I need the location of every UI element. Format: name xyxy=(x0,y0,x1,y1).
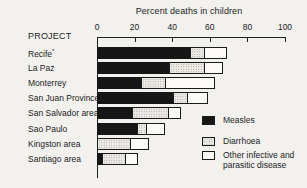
bar-segment-diarrhoea xyxy=(173,92,188,104)
bar-segment-other xyxy=(204,47,227,59)
chart-row: Monterrey xyxy=(0,77,307,89)
bar-segment-measles xyxy=(97,92,174,104)
x-tick xyxy=(285,37,286,42)
measles-swatch-icon xyxy=(202,116,215,125)
bar-segment-measles xyxy=(97,47,191,59)
x-tick-label: 100 xyxy=(278,22,292,32)
bar-segment-diarrhoea xyxy=(169,62,205,74)
category-label: Sao Paulo xyxy=(28,124,67,134)
category-label: Santiago area xyxy=(28,154,81,164)
stacked-bar xyxy=(97,138,149,150)
bar-segment-other xyxy=(146,123,165,135)
x-tick-label: 40 xyxy=(167,22,176,32)
chart-title: Percent deaths in children xyxy=(136,6,243,16)
x-tick-label: 60 xyxy=(205,22,214,32)
stacked-bar xyxy=(97,92,208,104)
stacked-bar xyxy=(97,77,215,89)
x-tick-label: 0 xyxy=(95,22,100,32)
diarrhoea-swatch-icon xyxy=(202,137,215,146)
bar-segment-measles xyxy=(97,107,133,119)
x-tick xyxy=(210,37,211,42)
legend-label: Other infective and parasitic disease xyxy=(223,151,303,170)
legend-item-diarrhoea: Diarrhoea xyxy=(202,137,303,147)
x-tick xyxy=(135,37,136,42)
bar-segment-other xyxy=(125,153,138,165)
mortality-stacked-bar-figure: Percent deaths in children PROJECT 02040… xyxy=(0,0,307,188)
bar-segment-other xyxy=(168,107,181,119)
legend-item-measles: Measles xyxy=(202,116,303,126)
bar-segment-diarrhoea xyxy=(190,47,205,59)
stacked-bar xyxy=(97,62,223,74)
category-label: San Salvador area xyxy=(28,108,98,118)
bar-segment-other xyxy=(187,92,208,104)
chart-row: San Juan Province xyxy=(0,92,307,104)
category-label: San Juan Province xyxy=(28,93,99,103)
bar-segment-other xyxy=(165,77,216,89)
bar-segment-diarrhoea xyxy=(102,153,126,165)
stacked-bar xyxy=(97,107,181,119)
chart-row: La Paz xyxy=(0,62,307,74)
footnote-marker: * xyxy=(52,48,54,54)
legend-label: Diarrhoea xyxy=(223,137,303,147)
category-label: La Paz xyxy=(28,63,54,73)
stacked-bar xyxy=(97,47,227,59)
other-disease-swatch-icon xyxy=(202,151,215,160)
bar-segment-other xyxy=(204,62,223,74)
bar-segment-diarrhoea xyxy=(132,107,170,119)
bar-segment-diarrhoea xyxy=(97,138,131,150)
x-axis-line xyxy=(97,37,286,38)
y-axis-header: PROJECT xyxy=(28,31,71,41)
x-tick xyxy=(172,37,173,42)
bar-segment-measles xyxy=(97,62,170,74)
bar-segment-other xyxy=(130,138,149,150)
bar-segment-measles xyxy=(97,77,142,89)
bar-segment-diarrhoea xyxy=(141,77,165,89)
legend-label: Measles xyxy=(223,116,303,126)
category-label: Recife* xyxy=(28,48,54,59)
x-tick-label: 80 xyxy=(243,22,252,32)
stacked-bar xyxy=(97,153,138,165)
category-label: Kingston area xyxy=(28,139,80,149)
legend-item-other: Other infective and parasitic disease xyxy=(202,151,303,170)
x-tick-label: 20 xyxy=(130,22,139,32)
x-tick xyxy=(247,37,248,42)
chart-row: Recife* xyxy=(0,47,307,59)
bar-segment-measles xyxy=(97,123,138,135)
category-label: Monterrey xyxy=(28,78,66,88)
stacked-bar xyxy=(97,123,165,135)
